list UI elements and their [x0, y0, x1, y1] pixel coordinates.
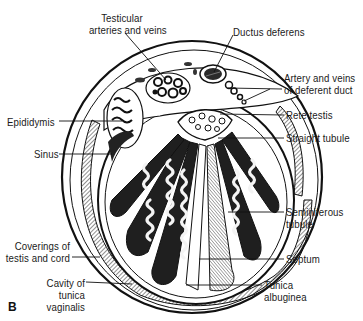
label-testicular-arteries: Testicular arteries and veins: [89, 12, 155, 36]
label-cavity-tunica-vaginalis: Cavity of tunica vaginalis: [7, 277, 85, 313]
label-ductus-deferens: Ductus deferens: [233, 26, 305, 38]
label-tunica-albuginea: Tunica albuginea: [264, 279, 307, 303]
label-straight-tubule: Straight tubule: [286, 132, 350, 144]
label-artery-deferent-duct: Artery and veins of deferent duct: [284, 72, 355, 96]
testicular-vessels: [146, 73, 190, 103]
testis-diagram: Testicular arteries and veins Ductus def…: [0, 0, 363, 321]
ductus-deferens: [200, 65, 226, 83]
label-epididymis: Epididymis: [7, 116, 55, 128]
label-rete-testis: Rete testis: [286, 109, 333, 121]
panel-letter: B: [8, 300, 17, 314]
label-septum: Septum: [286, 253, 320, 265]
label-coverings: Coverings of testis and cord: [6, 240, 70, 264]
diagram-illustration: [0, 0, 363, 321]
label-sinus: Sinus: [34, 148, 59, 160]
label-seminiferous-tubule: Seminiferous tubule: [286, 206, 343, 230]
